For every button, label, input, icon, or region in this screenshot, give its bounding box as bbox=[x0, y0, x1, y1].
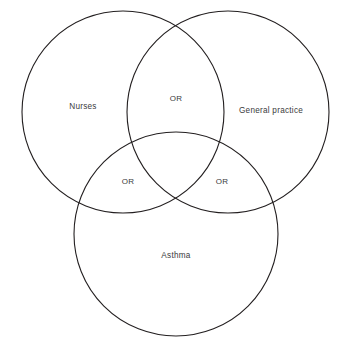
venn-label-asthma: Asthma bbox=[161, 252, 190, 260]
venn-circle-asthma bbox=[74, 132, 278, 336]
venn-label-or-general-practice-asthma: OR bbox=[216, 178, 229, 186]
venn-circles-group bbox=[0, 0, 350, 351]
venn-label-or-nurses-general-practice: OR bbox=[170, 95, 183, 103]
venn-label-or-nurses-asthma: OR bbox=[122, 178, 135, 186]
venn-label-nurses: Nurses bbox=[69, 103, 96, 111]
venn-label-general-practice: General practice bbox=[239, 107, 303, 115]
venn-diagram: Nurses General practice Asthma OR OR OR bbox=[0, 0, 350, 351]
